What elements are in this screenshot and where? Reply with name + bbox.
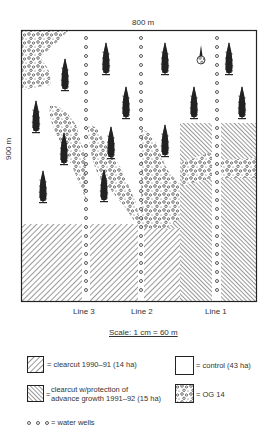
legend-swatch-control: [176, 357, 194, 375]
legend-og-label: = OG 14: [196, 390, 225, 399]
legend-well-icons: [28, 422, 49, 425]
north-marker-icon: [197, 45, 205, 64]
legend-swatch-clearcut: [28, 357, 44, 373]
legend-clearcut-label: = clearcut 1990–91 (14 ha): [47, 360, 137, 369]
legend-wells-label: = water wells: [51, 418, 95, 427]
legend-advance-label-2: advance growth 1991–92 (15 ha): [51, 394, 161, 403]
height-label: 900 m: [4, 138, 13, 160]
line-3-label: Line 3: [73, 307, 95, 316]
scale-label: Scale: 1 cm = 60 m: [109, 328, 178, 337]
legend-advance-eq: =: [46, 390, 50, 399]
legend-advance-label-1: clearcut w/protection of: [51, 385, 128, 394]
og-regions: [22, 31, 256, 230]
width-label: 800 m: [132, 18, 154, 27]
line-2-label: Line 2: [131, 307, 153, 316]
legend-control-label: = control (43 ha): [196, 361, 251, 370]
legend-swatch-og: [176, 385, 194, 403]
legend-swatch-advance-growth: [28, 386, 44, 402]
line-1-label: Line 1: [205, 307, 227, 316]
study-site-map: [0, 0, 272, 445]
clearcut-1990-regions: [22, 224, 180, 301]
